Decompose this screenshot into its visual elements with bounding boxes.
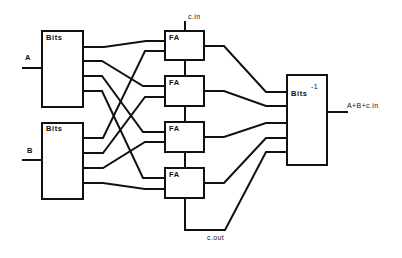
sum-output-label: A+B+c.in (347, 102, 379, 109)
wire-sum0 (204, 46, 287, 92)
full-adder-1: FA (165, 76, 204, 106)
wire-sum1 (204, 91, 287, 106)
bits-a-block: Bits (42, 31, 83, 107)
wire-sum3 (204, 138, 287, 183)
full-adder-2: FA (165, 122, 204, 152)
input-a-label: A (25, 53, 31, 62)
wire-a3-fa3 (83, 91, 165, 178)
bits-inverse-label: Bits (291, 89, 308, 98)
bits-b-label: Bits (46, 124, 63, 133)
fa3-label: FA (169, 170, 180, 179)
wire-a1-fa1 (83, 61, 165, 86)
wire-a0-fa0 (83, 41, 165, 47)
carry-in-label: c.in (188, 13, 201, 20)
bits-a-label: Bits (46, 33, 63, 42)
wire-b2-fa2 (83, 142, 165, 168)
input-b-label: B (27, 146, 33, 155)
fa0-label: FA (169, 33, 180, 42)
wire-sum2 (204, 123, 287, 137)
carry-out-label: c.out (207, 234, 224, 241)
full-adder-0: FA (165, 31, 204, 60)
adder-diagram: A B Bits Bits FA FA FA FA (0, 0, 402, 258)
fa2-label: FA (169, 124, 180, 133)
bits-b-block: Bits (42, 123, 83, 199)
full-adder-3: FA (165, 168, 204, 198)
wire-b3-fa3 (83, 183, 165, 189)
bits-inverse-block: Bits -1 (287, 75, 327, 165)
bits-inverse-superscript: -1 (311, 83, 318, 90)
fa1-label: FA (169, 78, 180, 87)
